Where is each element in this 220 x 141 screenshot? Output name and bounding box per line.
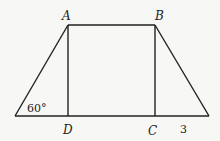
label-angle: 60° (27, 102, 47, 115)
label-d: D (62, 123, 73, 137)
right-leg (155, 25, 209, 116)
label-a: A (61, 9, 71, 23)
label-b: B (154, 9, 164, 23)
label-length: 3 (180, 123, 187, 136)
trapezoid-diagram: A B D C 3 60° (0, 0, 220, 141)
label-c: C (148, 124, 157, 138)
